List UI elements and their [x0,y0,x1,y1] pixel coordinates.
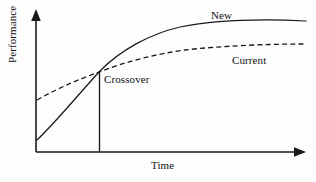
series-label-current: Current [232,54,266,66]
time-axis [36,147,306,157]
time-axis-arrow-icon [294,147,306,157]
chart-canvas [0,0,316,182]
x-axis-label: Time [151,159,174,171]
crossover-label: Crossover [104,73,150,85]
series-label-new: New [211,9,232,21]
series-line-current [37,44,306,100]
y-axis-label: Performance [6,0,18,63]
performance-axis-arrow-icon [31,9,41,21]
performance-vs-time-chart: New Current Crossover Time Performance [0,0,316,182]
performance-axis [31,9,41,152]
